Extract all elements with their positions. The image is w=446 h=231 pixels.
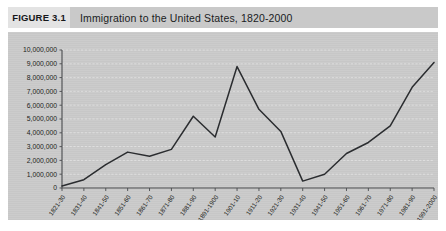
x-tick-label: 1821-30 [47,193,66,217]
x-tick-label: 1871-80 [157,193,176,217]
y-axis-tick-labels: 01,000,0002,000,0003,000,0004,000,0005,0… [23,46,57,191]
x-tick-label: 1881-90 [178,193,197,217]
x-tick-label: 1861-70 [135,193,154,217]
x-tick-label: 1951-60 [332,193,351,217]
y-tick-label: 5,000,000 [27,115,57,122]
immigration-line-chart: 01,000,0002,000,0003,000,0004,000,0005,0… [8,32,438,220]
figure-title: Immigration to the United States, 1820-2… [70,7,438,28]
figure-number-label: FIGURE 3.1 [8,7,70,28]
y-tick-label: 1,000,000 [27,171,57,178]
x-tick-label: 1851-60 [113,193,132,217]
y-tick-label: 0 [53,184,57,191]
figure-header: FIGURE 3.1 Immigration to the United Sta… [8,7,438,28]
y-tick-label: 10,000,000 [23,46,57,53]
x-tick-label: 1891-1900 [196,193,220,220]
x-tick-label: 1841-50 [91,193,110,217]
gridlines [62,50,434,174]
x-tick-label: 1961-70 [353,193,372,217]
x-tick-label: 1981-90 [397,193,416,217]
y-tick-label: 7,000,000 [27,88,57,95]
chart-inner: 01,000,0002,000,0003,000,0004,000,0005,0… [8,32,438,220]
y-tick-label: 4,000,000 [27,129,57,136]
y-tick-label: 2,000,000 [27,157,57,164]
x-tick-label: 1921-30 [266,193,285,217]
x-tick-label: 1971-80 [375,193,394,217]
chart-plot-area: 01,000,0002,000,0003,000,0004,000,0005,0… [8,32,438,220]
y-tick-label: 3,000,000 [27,143,57,150]
x-axis-tick-labels: 1821-301831-401841-501851-601861-701871-… [47,193,438,220]
immigration-data-line [62,62,434,186]
x-tick-label: 1941-50 [310,193,329,217]
x-tick-label: 1911-20 [244,193,263,216]
y-tick-label: 8,000,000 [27,74,57,81]
x-tick-label: 1831-40 [69,193,88,217]
x-tick-label: 1991-2000 [415,193,438,220]
x-tick-label: 1931-40 [288,193,307,217]
figure-container: FIGURE 3.1 Immigration to the United Sta… [0,0,446,231]
y-tick-label: 6,000,000 [27,102,57,109]
y-tick-label: 9,000,000 [27,60,57,67]
x-tick-label: 1901-10 [222,193,241,217]
